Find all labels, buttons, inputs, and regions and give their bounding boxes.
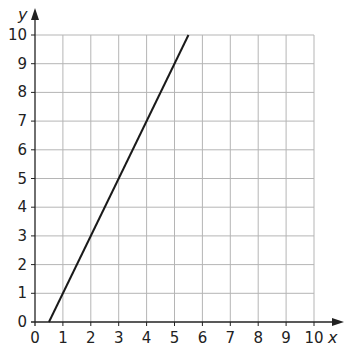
x-tick-label: 10 bbox=[304, 329, 323, 347]
y-tick-label: 1 bbox=[17, 284, 27, 302]
x-tick-label: 6 bbox=[198, 329, 208, 347]
x-tick-label: 9 bbox=[281, 329, 291, 347]
x-tick-label: 7 bbox=[226, 329, 236, 347]
x-tick-label: 5 bbox=[170, 329, 180, 347]
y-tick-label: 7 bbox=[17, 112, 27, 130]
y-tick-label: 2 bbox=[17, 256, 27, 274]
y-tick-label: 4 bbox=[17, 198, 27, 216]
y-axis-label: y bbox=[17, 5, 28, 24]
grid-lines bbox=[35, 35, 314, 322]
axes bbox=[31, 8, 344, 326]
x-tick-label: 3 bbox=[114, 329, 124, 347]
x-tick-label: 1 bbox=[58, 329, 68, 347]
x-tick-label: 0 bbox=[30, 329, 40, 347]
y-tick-label: 0 bbox=[17, 313, 27, 331]
y-tick-label: 8 bbox=[17, 83, 27, 101]
y-tick-label: 10 bbox=[8, 26, 27, 44]
y-tick-label: 6 bbox=[17, 141, 27, 159]
y-tick-label: 5 bbox=[17, 170, 27, 188]
x-axis-arrow-icon bbox=[332, 318, 344, 326]
line-chart: 012345678910012345678910 x y bbox=[0, 0, 347, 353]
y-tick-label: 3 bbox=[17, 227, 27, 245]
x-axis-label: x bbox=[327, 328, 338, 347]
y-tick-label: 9 bbox=[17, 55, 27, 73]
x-tick-label: 4 bbox=[142, 329, 152, 347]
x-tick-label: 2 bbox=[86, 329, 96, 347]
tick-labels: 012345678910012345678910 bbox=[8, 26, 324, 347]
y-axis-arrow-icon bbox=[31, 8, 39, 20]
x-tick-label: 8 bbox=[253, 329, 263, 347]
